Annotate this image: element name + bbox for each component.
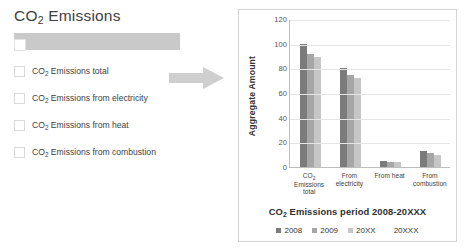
page-title: CO2 Emissions bbox=[14, 7, 121, 25]
x-tick-label: From combustion bbox=[410, 172, 450, 204]
plot-area-wrapper: Aggregate Amount 020406080100120 CO2 Emi… bbox=[239, 14, 458, 182]
bar-2008 bbox=[300, 44, 307, 167]
legend-swatch-icon bbox=[386, 228, 391, 233]
x-tick-label: CO2 Emissions total bbox=[289, 172, 329, 204]
bar-2009 bbox=[307, 54, 314, 167]
bar-20XX bbox=[314, 57, 321, 167]
gridline bbox=[290, 143, 450, 144]
legend-label: 2008 bbox=[284, 226, 302, 235]
chart-title: CO2 Emissions period 2008-20XXX bbox=[239, 206, 456, 217]
y-tick-label: 80 bbox=[261, 65, 287, 73]
y-tick-label: 100 bbox=[261, 41, 287, 49]
checkbox-option-co2-emissions-from-electricity[interactable]: CO2 Emissions from electricity bbox=[14, 91, 148, 105]
chart-title-subscript: 2 bbox=[283, 211, 287, 218]
arrow-head bbox=[203, 67, 224, 89]
label-subscript: 2 bbox=[45, 151, 49, 158]
arrow-shaft bbox=[169, 73, 205, 83]
legend-label: 20XXX bbox=[394, 226, 419, 235]
checkbox-icon[interactable] bbox=[14, 147, 25, 158]
plot-area bbox=[289, 20, 450, 168]
left-panel: CO2 Emissions CO2 Emissions total CO2 Em… bbox=[0, 0, 232, 251]
label-pre: CO bbox=[32, 93, 45, 103]
bar-20XX bbox=[394, 162, 401, 167]
checkbox-option-label: CO2 Emissions total bbox=[32, 66, 109, 76]
label-pre: CO bbox=[32, 147, 45, 157]
y-axis-ticks: 020406080100120 bbox=[257, 14, 287, 174]
label-post: Emissions total bbox=[48, 66, 108, 76]
label-subscript: 2 bbox=[45, 97, 49, 104]
chart-title-pre: CO bbox=[269, 206, 283, 217]
y-tick-label: 40 bbox=[261, 115, 287, 123]
highlighted-row[interactable] bbox=[14, 33, 180, 50]
legend-item-20XXX[interactable]: 20XXX bbox=[386, 226, 419, 235]
bar-2008 bbox=[380, 161, 387, 167]
gridline bbox=[290, 45, 450, 46]
y-tick-label: 0 bbox=[261, 164, 287, 172]
page-title-subscript: 2 bbox=[38, 14, 44, 26]
gridline bbox=[290, 69, 450, 70]
legend-swatch-icon bbox=[276, 228, 281, 233]
label-post: Emissions from heat bbox=[48, 120, 128, 130]
x-tick-label: From electricity bbox=[329, 172, 369, 204]
checkbox-option-label: CO2 Emissions from heat bbox=[32, 120, 129, 130]
legend-item-2008[interactable]: 2008 bbox=[276, 226, 302, 235]
bar-2009 bbox=[427, 153, 434, 167]
gridline bbox=[290, 94, 450, 95]
legend-label: 2009 bbox=[320, 226, 338, 235]
legend-item-2009[interactable]: 2009 bbox=[312, 226, 338, 235]
legend-swatch-icon bbox=[348, 228, 353, 233]
bar-20XX bbox=[354, 78, 361, 167]
checkbox-option-co2-emissions-total[interactable]: CO2 Emissions total bbox=[14, 64, 109, 78]
chart-legend: 2008200920XX20XXX bbox=[239, 224, 456, 236]
checkbox-icon[interactable] bbox=[14, 93, 25, 104]
legend-swatch-icon bbox=[312, 228, 317, 233]
label-post: Emissions from combustion bbox=[48, 147, 155, 157]
slide-canvas: CO2 Emissions CO2 Emissions total CO2 Em… bbox=[0, 0, 464, 251]
y-tick-label: 120 bbox=[261, 16, 287, 24]
x-tick-label: From heat bbox=[370, 172, 410, 204]
chart-panel: Aggregate Amount 020406080100120 CO2 Emi… bbox=[238, 9, 457, 242]
right-arrow-icon bbox=[169, 67, 224, 89]
checkbox-option-label: CO2 Emissions from combustion bbox=[32, 147, 156, 157]
bar-2009 bbox=[347, 75, 354, 168]
checkbox-option-co2-emissions-from-combustion[interactable]: CO2 Emissions from combustion bbox=[14, 145, 156, 159]
gridline bbox=[290, 20, 450, 21]
label-post: Emissions from electricity bbox=[48, 93, 147, 103]
legend-label: 20XX bbox=[356, 226, 376, 235]
label-pre: CO bbox=[32, 66, 45, 76]
chart-title-post: Emissions period 2008-20XXX bbox=[287, 206, 426, 217]
bar-2008 bbox=[420, 151, 427, 167]
page-title-pre: CO bbox=[14, 7, 38, 24]
checkbox-icon[interactable] bbox=[14, 120, 25, 131]
y-tick-label: 20 bbox=[261, 139, 287, 147]
label-subscript: 2 bbox=[45, 124, 49, 131]
page-title-post: Emissions bbox=[44, 7, 121, 24]
checkbox-option-co2-emissions-from-heat[interactable]: CO2 Emissions from heat bbox=[14, 118, 129, 132]
x-axis-labels: CO2 Emissions totalFrom electricityFrom … bbox=[289, 172, 450, 204]
label-subscript: 2 bbox=[45, 70, 49, 77]
bar-2009 bbox=[387, 162, 394, 167]
gridline bbox=[290, 119, 450, 120]
checkbox-option-label: CO2 Emissions from electricity bbox=[32, 93, 148, 103]
label-pre: CO bbox=[32, 120, 45, 130]
checkbox-icon[interactable] bbox=[14, 66, 25, 77]
highlighted-row-checkbox[interactable] bbox=[14, 39, 26, 51]
y-tick-label: 60 bbox=[261, 90, 287, 98]
legend-item-20XX[interactable]: 20XX bbox=[348, 226, 376, 235]
bar-20XX bbox=[434, 155, 441, 167]
